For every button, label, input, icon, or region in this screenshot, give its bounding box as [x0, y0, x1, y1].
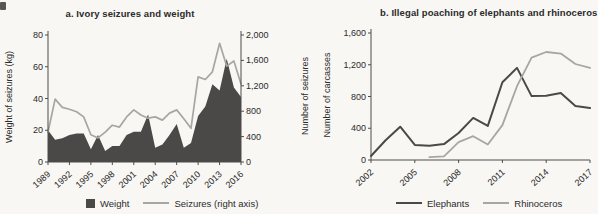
y-tick-label: 40 [33, 94, 43, 104]
legend-label-weight: Weight [100, 198, 129, 209]
series-area-0 [48, 59, 241, 162]
x-tick-label: 1989 [31, 169, 53, 190]
y-tick-label: 400 [351, 123, 366, 133]
panel-b-title: b. Illegal poaching of elephants and rhi… [380, 7, 580, 18]
y2-tick-label: 0 [246, 157, 251, 167]
x-tick-label: 1998 [95, 169, 117, 190]
legend-label-seizures: Seizures (right axis) [174, 198, 258, 209]
x-tick-label: 2001 [117, 169, 139, 190]
legend-label-elephants: Elephants [427, 198, 469, 209]
y-tick-label: 60 [33, 62, 43, 72]
y-tick-label: 1,600 [343, 28, 366, 38]
y-tick-label: 20 [33, 125, 43, 135]
y-tick-label: 1,200 [343, 60, 366, 70]
elephants-line-swatch-icon [396, 202, 422, 204]
x-tick-label: 2017 [573, 167, 595, 188]
y2-tick-label: 1,200 [246, 81, 269, 91]
figure-canvas: 02040608004008001,2001,6002,000198919921… [0, 0, 598, 214]
x-tick-label: 2005 [398, 167, 420, 188]
rhinoceros-line-swatch-icon [483, 202, 509, 204]
panel-a-legend: Weight Seizures (right axis) [86, 197, 272, 209]
x-tick-label: 2008 [441, 167, 463, 188]
y2-tick-label: 2,000 [246, 30, 269, 40]
x-tick-label: 1992 [52, 169, 74, 190]
poaching-chart-plot: 04008001,2001,60020022005200820112014201… [343, 28, 594, 188]
x-tick-label: 2010 [181, 169, 203, 190]
panel-b-legend: Elephants Rhinoceros [396, 197, 576, 209]
x-tick-label: 1995 [74, 169, 96, 190]
y2-tick-label: 400 [246, 132, 261, 142]
x-tick-label: 2004 [138, 169, 160, 190]
ivory-chart-plot: 02040608004008001,2001,6002,000198919921… [31, 30, 269, 190]
series-line-0 [371, 68, 590, 156]
y-tick-label: 800 [351, 92, 366, 102]
x-tick-label: 2016 [224, 169, 246, 190]
y2-tick-label: 1,600 [246, 55, 269, 65]
seizures-line-swatch-icon [143, 202, 169, 204]
y-tick-label: 0 [361, 155, 366, 165]
y-tick-label: 0 [38, 157, 43, 167]
panel-a-left-axis-title: Weight of seizures (kg) [4, 32, 14, 162]
x-tick-label: 2002 [354, 167, 376, 188]
panel-a-title: a. Ivory seizures and weight [40, 8, 220, 19]
y-tick-label: 80 [33, 30, 43, 40]
legend-label-rhinoceros: Rhinoceros [514, 198, 562, 209]
panel-b-axis-title: Number of carcasses [322, 30, 332, 160]
x-tick-label: 2014 [529, 167, 551, 188]
x-tick-label: 2013 [202, 169, 224, 190]
weight-swatch-icon [86, 199, 95, 208]
charts-svg: 02040608004008001,2001,6002,000198919921… [0, 0, 598, 214]
series-line-1 [429, 52, 590, 157]
y2-tick-label: 800 [246, 106, 261, 116]
x-tick-label: 2007 [159, 169, 181, 190]
x-tick-label: 2011 [486, 167, 507, 187]
panel-a-right-axis-title: Number of seizures [300, 31, 310, 161]
